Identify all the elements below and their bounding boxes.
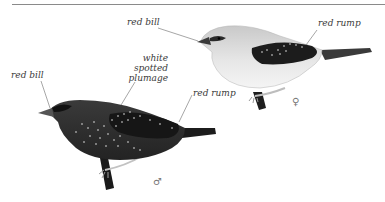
male-bird <box>38 100 216 190</box>
female-symbol: ♀ <box>292 96 299 107</box>
male-white-spotted-plumage-label: white spotted plumage <box>108 53 168 83</box>
bird-artwork <box>0 0 385 202</box>
female-red-rump-label: red rump <box>318 18 361 28</box>
male-symbol: ♂ <box>153 176 162 187</box>
bird-illustration-figure: red bill red rump ♀ red bill white spott… <box>0 0 385 202</box>
female-red-bill-label: red bill <box>127 17 160 27</box>
male-red-rump-label: red rump <box>193 88 236 98</box>
male-red-bill-label: red bill <box>11 70 44 80</box>
